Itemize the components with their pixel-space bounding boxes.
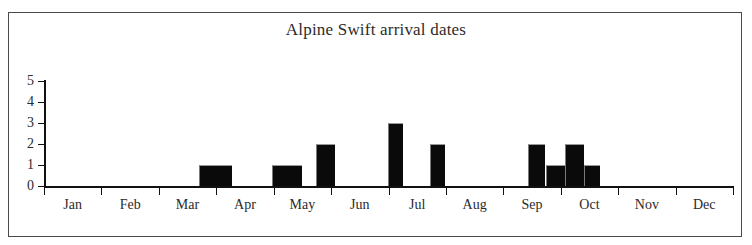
- bar: [584, 165, 600, 186]
- x-axis-tick: [101, 188, 102, 195]
- x-axis-tick: [676, 188, 677, 195]
- y-axis-tick-label: 1: [12, 158, 34, 172]
- y-axis-tick-label: 4: [12, 95, 34, 109]
- x-axis-tick: [446, 188, 447, 195]
- x-axis-tick-label: Jul: [387, 198, 447, 212]
- x-axis-tick: [733, 188, 734, 195]
- y-axis-tick: [38, 123, 45, 124]
- y-axis-tick: [38, 81, 45, 82]
- y-axis-tick: [38, 186, 45, 187]
- y-axis-tick-label: 5: [12, 74, 34, 88]
- x-axis-tick: [159, 188, 160, 195]
- x-axis-tick-label: Aug: [445, 198, 505, 212]
- x-axis-tick: [503, 188, 504, 195]
- y-axis-tick-label: 2: [12, 137, 34, 151]
- bar: [316, 144, 335, 186]
- y-axis-line: [44, 80, 46, 187]
- x-axis-tick-label: Mar: [158, 198, 218, 212]
- x-axis-tick: [389, 188, 390, 195]
- y-axis-tick-label: 3: [12, 116, 34, 130]
- x-axis-tick-label: Sep: [502, 198, 562, 212]
- y-axis-tick-label: 0: [12, 179, 34, 193]
- x-axis-tick-label: Dec: [674, 198, 734, 212]
- bar: [199, 165, 232, 186]
- y-axis-tick: [38, 144, 45, 145]
- bar: [388, 123, 403, 186]
- x-axis-tick-label: Nov: [617, 198, 677, 212]
- x-axis-tick: [561, 188, 562, 195]
- x-axis-tick-label: Oct: [559, 198, 619, 212]
- x-axis-tick-label: Jan: [43, 198, 103, 212]
- x-axis-tick: [44, 188, 45, 195]
- y-axis-tick: [38, 102, 45, 103]
- y-axis-tick: [38, 165, 45, 166]
- bar: [565, 144, 584, 186]
- figure: Alpine Swift arrival dates 543210 JanFeb…: [0, 0, 752, 245]
- x-axis-tick: [618, 188, 619, 195]
- x-axis-tick-label: Feb: [100, 198, 160, 212]
- x-axis-tick: [216, 188, 217, 195]
- bar: [528, 144, 545, 186]
- x-axis-tick: [274, 188, 275, 195]
- x-axis-tick-label: May: [272, 198, 332, 212]
- bar: [546, 165, 565, 186]
- bar: [272, 165, 302, 186]
- bar: [430, 144, 445, 186]
- x-axis-tick-label: Apr: [215, 198, 275, 212]
- plot-area: 543210 JanFebMarAprMayJunJulAugSepOctNov…: [0, 0, 752, 245]
- x-axis-tick: [331, 188, 332, 195]
- x-axis-tick-label: Jun: [330, 198, 390, 212]
